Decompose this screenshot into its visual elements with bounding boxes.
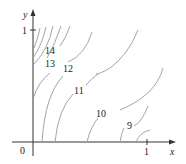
contour-line-9-lower <box>120 128 124 142</box>
contour-line-8 <box>136 130 150 142</box>
contour-label-11: 11 <box>74 85 84 96</box>
origin-label: 0 <box>20 145 25 156</box>
y-axis-arrow-icon <box>31 9 36 16</box>
y-tick-label: 1 <box>22 25 27 36</box>
x-tick-label: 1 <box>144 146 149 157</box>
contour-line-11-lower <box>55 94 73 142</box>
contour-label-12: 12 <box>63 63 73 74</box>
contour-line-9 <box>134 106 148 126</box>
contour-plot: y 1 0 1 x 14 13 12 11 10 9 <box>0 0 186 164</box>
contour-label-14: 14 <box>45 45 55 56</box>
x-axis-arrow-icon <box>169 140 176 145</box>
contour-lines <box>33 26 163 142</box>
y-axis-label: y <box>22 9 28 20</box>
contour-line-12 <box>42 76 63 142</box>
axes <box>12 9 176 156</box>
contour-line-11 <box>86 74 98 85</box>
contour-line <box>60 26 70 46</box>
contour-line <box>34 28 40 48</box>
labels: y 1 0 1 x 14 13 12 11 10 9 <box>20 9 175 157</box>
x-axis-label: x <box>169 146 175 157</box>
contour-line <box>96 30 138 74</box>
contour-plot-svg: y 1 0 1 x 14 13 12 11 10 9 <box>0 0 186 164</box>
contour-label-9: 9 <box>127 120 132 131</box>
contour-line-10 <box>120 68 163 110</box>
contour-line-10-lower <box>87 118 98 142</box>
contour-label-13: 13 <box>45 58 55 69</box>
contour-label-10: 10 <box>96 108 106 119</box>
contour-line <box>68 32 92 62</box>
contour-line-13 <box>33 73 50 99</box>
